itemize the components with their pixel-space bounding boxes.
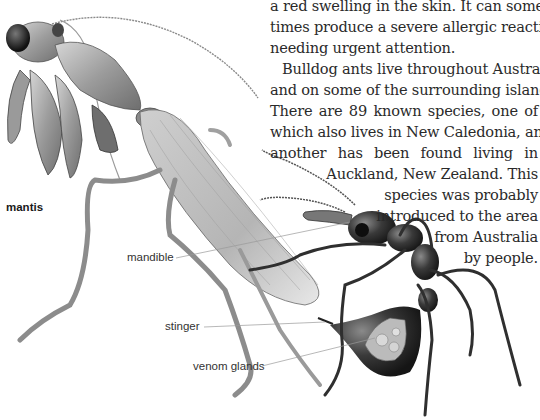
- body-line: and on some of the surrounding islands.: [270, 79, 538, 100]
- body-line: There are 89 known species, one of: [270, 100, 538, 121]
- body-line: times produce a severe allergic reaction: [270, 16, 538, 37]
- label-mandible: mandible: [127, 251, 174, 263]
- body-line: Bulldog ants live throughout Australia: [270, 58, 538, 79]
- body-line: Auckland, New Zealand. This: [270, 163, 538, 184]
- body-line: a red swelling in the skin. It can some-: [270, 0, 538, 16]
- body-line: another has been found living in: [270, 142, 538, 163]
- label-stinger: stinger: [165, 320, 200, 332]
- body-text: a red swelling in the skin. It can some-…: [270, 0, 538, 268]
- body-line: introduced to the area: [270, 205, 538, 226]
- book-page: a red swelling in the skin. It can some-…: [0, 0, 540, 420]
- body-line: from Australia: [270, 226, 538, 247]
- body-line: which also lives in New Caledonia, and: [270, 121, 538, 142]
- body-line: by people.: [270, 247, 538, 268]
- label-mantis: mantis: [6, 201, 43, 213]
- body-line: species was probably: [270, 184, 538, 205]
- body-line: needing urgent attention.: [270, 37, 538, 58]
- label-venom-glands: venom glands: [193, 360, 265, 372]
